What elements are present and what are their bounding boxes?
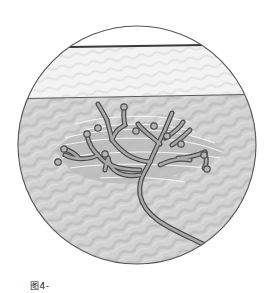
upper-layer [0, 44, 274, 99]
figure-caption: 图4- [30, 281, 49, 291]
